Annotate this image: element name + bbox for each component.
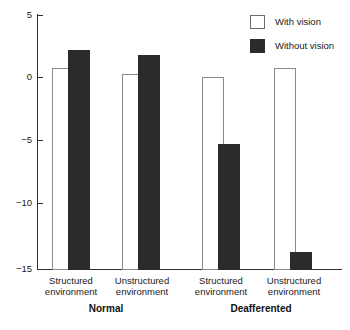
white-square-swatch-icon [250,15,265,29]
group-label-normal: Normal [56,303,156,314]
y-tick-label-neg5: −5 [2,135,32,145]
black-square-swatch-icon [250,39,265,53]
bar-without-vision-deafferented-unstructured [290,252,312,270]
y-tick-label-0: 0 [2,72,32,82]
bar-without-vision-deafferented-structured [218,144,240,270]
bar-without-vision-normal-unstructured [138,55,160,270]
y-tick-mark-5 [37,15,43,16]
y-tick-mark-neg10 [37,203,43,204]
legend-label-with-vision: With vision [275,16,321,28]
y-tick-mark-0 [37,77,43,78]
category-label-line1: Unstructured [267,275,321,286]
category-label-line1: Unstructured [115,275,169,286]
category-label-normal-unstructured: Unstructured environment [96,275,188,297]
category-label-line2: environment [248,286,340,297]
y-tick-mark-neg15 [37,269,43,270]
category-label-deafferented-unstructured: Unstructured environment [248,275,340,297]
group-label-deafferented: Deafferented [206,303,316,314]
y-tick-label-neg10: −10 [2,198,32,208]
bar-without-vision-normal-structured [68,50,90,270]
bar-chart: 5 0 −5 −10 −15 Structured environment Un… [0,0,350,330]
y-tick-label-neg15: −15 [2,264,32,274]
legend-label-without-vision: Without vision [275,40,334,52]
category-label-line1: Structured [49,275,93,286]
y-tick-mark-neg5 [37,140,43,141]
y-tick-label-5: 5 [2,10,32,20]
bar-with-vision-deafferented-unstructured [274,68,296,270]
category-label-line2: environment [96,286,188,297]
y-axis-line [37,14,38,270]
category-label-line1: Structured [199,275,243,286]
